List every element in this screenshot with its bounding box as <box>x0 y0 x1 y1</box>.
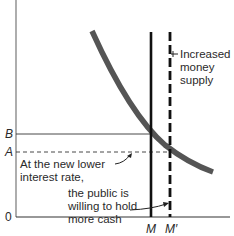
label-origin: 0 <box>5 210 12 224</box>
label-a: A <box>4 145 13 159</box>
note-public-line2: willing to hold <box>67 200 137 212</box>
note-increased-line2: money <box>180 61 215 73</box>
label-b: B <box>5 127 13 141</box>
note-lower-line2: interest rate, <box>20 171 84 183</box>
note-increased-line1: Increased <box>180 48 231 60</box>
note-increased-line3: supply <box>180 74 213 86</box>
money-demand-diagram: B A 0 M M′ Increased money supply At the… <box>0 0 234 236</box>
more-cash-arrow-head <box>163 202 169 207</box>
label-m-prime: M′ <box>165 222 178 236</box>
note-public-line1: the public is <box>68 187 129 199</box>
note-public-line3: more cash <box>68 213 122 225</box>
note-lower-line1: At the new lower <box>20 158 105 170</box>
label-m: M <box>146 222 156 236</box>
